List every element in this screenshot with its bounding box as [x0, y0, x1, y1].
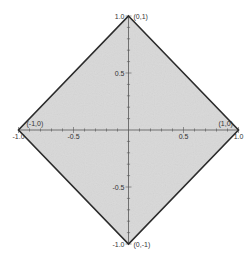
vertex-label: (0,-1) — [134, 241, 151, 249]
vertex-label: (1,0) — [219, 120, 233, 128]
x-tick-label: -0.5 — [67, 133, 79, 140]
y-tick-label: 1.0 — [115, 13, 125, 20]
diamond-plot: -1.0-0.50.51.01.00.5-0.5-1.0(0,1)(1,0)(0… — [0, 0, 250, 258]
x-tick-label: 1.0 — [234, 133, 244, 140]
vertex-label: (0,1) — [134, 13, 148, 21]
y-tick-label: -0.5 — [112, 184, 124, 191]
y-tick-label: 0.5 — [115, 70, 125, 77]
axes — [19, 16, 239, 244]
x-tick-label: 0.5 — [179, 133, 189, 140]
vertex-label: (-1,0) — [27, 120, 44, 128]
y-tick-label: -1.0 — [112, 241, 124, 248]
x-tick-label: -1.0 — [12, 133, 24, 140]
